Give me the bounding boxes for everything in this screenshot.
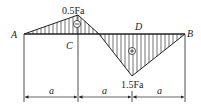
label-c: C	[66, 40, 73, 51]
moment-diagram: A B C D 0.5Fa 1.5Fa a a a	[0, 0, 201, 112]
label-a: A	[10, 29, 18, 40]
minus-sign-icon	[74, 21, 81, 28]
dimension-label-3: a	[157, 85, 162, 96]
dimension-label-1: a	[49, 85, 54, 96]
label-d: D	[134, 21, 143, 32]
positive-moment-region	[99, 34, 185, 76]
plus-sign-icon	[129, 48, 136, 55]
label-b: B	[187, 28, 193, 39]
value-positive: 1.5Fa	[121, 79, 144, 90]
dimension-label-2: a	[102, 85, 107, 96]
value-negative: 0.5Fa	[62, 5, 85, 16]
negative-moment-region	[24, 15, 99, 34]
